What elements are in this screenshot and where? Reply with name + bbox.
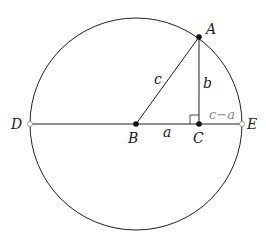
point-c: [196, 121, 202, 127]
label-b: B: [127, 130, 138, 146]
label-side-a: a: [163, 124, 171, 140]
label-c-minus-a: c−a: [209, 107, 235, 122]
label-side-c: c: [154, 71, 162, 87]
point-a: [196, 34, 202, 40]
label-side-b: b: [203, 75, 212, 91]
segment-ba: [136, 37, 199, 124]
point-b: [133, 121, 139, 127]
point-d: [28, 122, 33, 127]
geometry-diagram: A B C D E c b a c−a: [0, 0, 266, 242]
label-a: A: [204, 21, 216, 37]
point-e: [240, 122, 245, 127]
label-c: C: [193, 130, 204, 146]
label-d: D: [10, 116, 22, 132]
label-e: E: [246, 116, 257, 132]
